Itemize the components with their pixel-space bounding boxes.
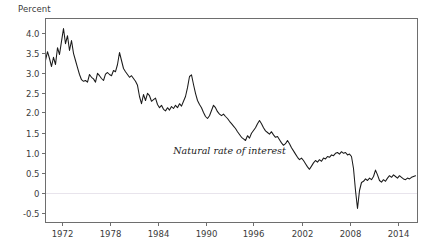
y-tick-label: 2.0 [26, 108, 40, 118]
x-tick-label: 2002 [292, 229, 314, 239]
series-annotation-label: Natural rate of interest [172, 145, 286, 156]
x-tick-label: 1996 [243, 229, 265, 239]
y-tick-label: 3.5 [26, 49, 40, 59]
y-tick-label: 0.5 [26, 169, 40, 179]
chart-annotations: Natural rate of interest [172, 145, 286, 156]
series-line-natural-rate [46, 29, 416, 209]
line-chart: 4.03.53.02.52.01.51.00.50-0.5 1972197819… [0, 0, 432, 251]
x-tick-label: 1990 [196, 229, 218, 239]
x-tick-label: 1984 [148, 229, 170, 239]
y-axis-tick-labels: 4.03.53.02.52.01.51.00.50-0.5 [23, 29, 40, 219]
y-tick-label: 1.0 [26, 149, 40, 159]
x-tick-label: 2008 [340, 229, 362, 239]
chart-container: Percent 4.03.53.02.52.01.51.00.50-0.5 19… [0, 0, 432, 251]
plot-frame [46, 19, 418, 223]
x-tick-label: 1978 [100, 229, 122, 239]
y-tick-label: -0.5 [23, 209, 40, 219]
y-tick-label: 2.5 [26, 89, 40, 99]
y-tick-label: 3.0 [26, 69, 40, 79]
x-tick-label: 2014 [388, 229, 410, 239]
x-tick-label: 1972 [52, 229, 74, 239]
y-tick-label: 0 [34, 189, 39, 199]
x-axis-tick-marks [63, 223, 399, 227]
y-tick-label: 4.0 [26, 29, 40, 39]
y-tick-label: 1.5 [26, 129, 40, 139]
x-axis-tick-labels: 19721978198419901996200220082014 [52, 229, 410, 239]
